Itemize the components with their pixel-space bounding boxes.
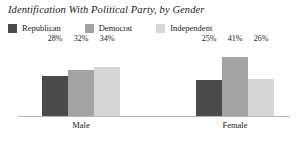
- bar-female-republican[interactable]: 25%: [196, 44, 222, 116]
- bar-rect-male-independent: [94, 67, 120, 116]
- legend-swatch-independent: [156, 24, 165, 33]
- bar-value-female-democrat: 41%: [228, 34, 243, 43]
- bar-group-female-bars: 25% 41% 26%: [196, 44, 274, 116]
- bar-group-male-bars: 28% 32% 34%: [42, 44, 120, 116]
- bar-value-male-democrat: 32%: [74, 34, 89, 43]
- chart-figure: Identification With Political Party, by …: [0, 0, 300, 144]
- legend-label-democrat: Democrat: [99, 23, 133, 33]
- bar-value-female-independent: 26%: [254, 34, 269, 43]
- chart-legend: Republican Democrat Independent: [8, 23, 212, 33]
- legend-item-independent[interactable]: Independent: [156, 23, 212, 33]
- bar-male-republican[interactable]: 28%: [42, 44, 68, 116]
- plot-area: 28% 32% 34% Male 25%: [0, 44, 300, 144]
- bar-value-male-republican: 28%: [48, 34, 63, 43]
- x-tick-label-male: Male: [72, 120, 89, 130]
- legend-label-independent: Independent: [170, 23, 212, 33]
- bar-rect-male-democrat: [68, 70, 94, 116]
- legend-swatch-democrat: [85, 24, 94, 33]
- bar-value-female-republican: 25%: [202, 34, 217, 43]
- legend-item-democrat[interactable]: Democrat: [85, 23, 133, 33]
- bar-female-democrat[interactable]: 41%: [222, 44, 248, 116]
- bar-male-independent[interactable]: 34%: [94, 44, 120, 116]
- bar-value-male-independent: 34%: [100, 34, 115, 43]
- legend-item-republican[interactable]: Republican: [8, 23, 61, 33]
- bar-rect-female-republican: [196, 80, 222, 116]
- x-axis-line: [18, 116, 290, 117]
- bar-female-independent[interactable]: 26%: [248, 44, 274, 116]
- bar-rect-male-republican: [42, 76, 68, 116]
- bar-male-democrat[interactable]: 32%: [68, 44, 94, 116]
- legend-label-republican: Republican: [22, 23, 61, 33]
- legend-swatch-republican: [8, 24, 17, 33]
- chart-title: Identification With Political Party, by …: [8, 4, 204, 15]
- bar-rect-female-independent: [248, 79, 274, 116]
- x-tick-label-female: Female: [222, 120, 247, 130]
- bar-rect-female-democrat: [222, 57, 248, 116]
